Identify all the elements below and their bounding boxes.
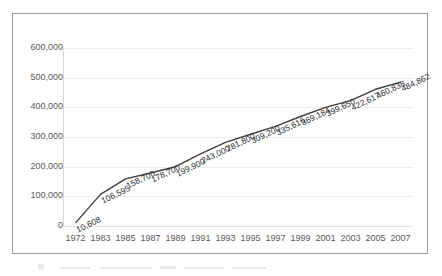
figure-page: 10,608106,595158,700178,700199,900243,00… (0, 0, 442, 276)
x-axis-tick-label: 1995 (240, 233, 260, 243)
artifact-mark (232, 267, 266, 269)
artifact-mark (38, 264, 44, 269)
y-axis-labels: 0100,000200,000300,000400,000500,000600,… (7, 14, 63, 276)
x-axis-tick-label: 1997 (265, 233, 285, 243)
y-axis-tick (57, 137, 61, 138)
y-axis-tick-label: 400,000 (11, 102, 63, 111)
y-axis-tick (57, 167, 61, 168)
x-axis-tick-label: 1989 (165, 233, 185, 243)
x-axis-tick-label: 1987 (140, 233, 160, 243)
x-axis-tick-label: 1993 (215, 233, 235, 243)
y-axis-tick-label: 200,000 (11, 162, 63, 171)
chart-frame: 10,608106,595158,700178,700199,900243,00… (12, 13, 428, 254)
y-axis-tick-label: 600,000 (11, 43, 63, 52)
plot-area: 10,608106,595158,700178,700199,900243,00… (63, 48, 413, 226)
x-axis-labels: 1972198319851987198919911993199519971999… (63, 233, 413, 247)
x-axis-tick-label: 2001 (315, 233, 335, 243)
y-axis-tick (57, 226, 61, 227)
artifact-mark (160, 266, 176, 269)
x-axis-tick-label: 1983 (90, 233, 110, 243)
y-axis-tick-label: 500,000 (11, 73, 63, 82)
y-axis-tick (57, 48, 61, 49)
y-axis-tick-label: 0 (11, 221, 63, 230)
x-axis-tick-label: 1972 (65, 233, 85, 243)
y-axis-tick-label: 300,000 (11, 132, 63, 141)
y-axis-tick (57, 196, 61, 197)
gridline (63, 226, 413, 227)
artifact-mark (60, 267, 90, 269)
x-axis-tick-label: 1999 (290, 233, 310, 243)
x-axis-tick-label: 1991 (190, 233, 210, 243)
y-axis-tick (57, 78, 61, 79)
y-axis-tick-label: 100,000 (11, 191, 63, 200)
y-axis-tick (57, 107, 61, 108)
x-axis-tick-label: 1985 (115, 233, 135, 243)
artifact-mark (184, 267, 224, 269)
x-axis-tick-label: 2005 (365, 233, 385, 243)
scan-artifacts (0, 258, 442, 276)
artifact-mark (100, 267, 152, 269)
x-axis-tick-label: 2007 (390, 233, 410, 243)
x-axis-tick-label: 2003 (340, 233, 360, 243)
